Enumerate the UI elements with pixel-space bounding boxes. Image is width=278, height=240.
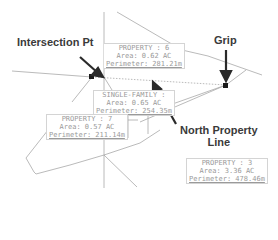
parcel-name: PROPERTY : 6	[106, 44, 182, 52]
parcel-perimeter: Perimeter: 211.14m	[49, 131, 125, 139]
north-property-line[interactable]	[92, 77, 226, 85]
callout-north-line-1: North Property	[180, 124, 258, 136]
callout-intersection-pt: Intersection Pt	[17, 36, 93, 48]
parcel-label-property-3[interactable]: PROPERTY : 3 Area: 3.36 AC Perimeter: 47…	[186, 158, 268, 184]
callout-north-property-line: North Property Line	[180, 124, 258, 148]
parcel-name: SINGLE-FAMILY :	[96, 91, 172, 99]
parcel-perimeter: Perimeter: 281.21m	[106, 60, 182, 68]
parcel-area: Area: 0.62 AC	[106, 52, 182, 60]
west-parcel-line[interactable]	[12, 71, 92, 77]
parcel-label-property-7[interactable]: PROPERTY : 7 Area: 0.57 AC Perimeter: 21…	[46, 114, 128, 140]
grip-arrow-head	[221, 71, 231, 81]
intersection-sw-line[interactable]	[72, 77, 92, 102]
parcel-area: Area: 0.57 AC	[49, 123, 125, 131]
callout-north-line-2: Line	[180, 136, 258, 148]
parcel-name: PROPERTY : 3	[189, 159, 265, 167]
callout-grip: Grip	[214, 34, 237, 46]
parcel-perimeter: Perimeter: 478.46m	[189, 175, 265, 183]
intersection-se-line[interactable]	[104, 77, 112, 90]
left-boundary-line[interactable]	[26, 130, 48, 174]
end-grip[interactable]	[223, 83, 228, 88]
parcel-area: Area: 3.36 AC	[189, 167, 265, 175]
south-diagonal-line[interactable]	[104, 155, 137, 187]
parcel-name: PROPERTY : 7	[49, 115, 125, 123]
parcel-area: Area: 0.65 AC	[96, 99, 172, 107]
parcel-label-property-6[interactable]: PROPERTY : 6 Area: 0.62 AC Perimeter: 28…	[104, 43, 185, 69]
parcel-label-single-family[interactable]: SINGLE-FAMILY : Area: 0.65 AC Perimeter:…	[93, 90, 175, 116]
